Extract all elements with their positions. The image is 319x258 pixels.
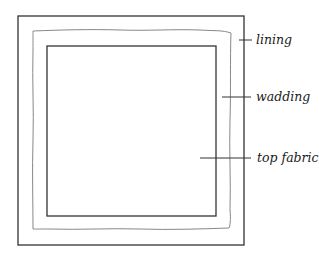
top-fabric-label: top fabric	[257, 150, 319, 165]
lining-label: lining	[256, 32, 292, 47]
quilt-layers-diagram: lining wadding top fabric	[0, 0, 319, 258]
lining-layer	[18, 16, 244, 245]
top-fabric-layer	[47, 46, 216, 216]
wadding-label: wadding	[256, 89, 310, 104]
wadding-layer	[33, 30, 231, 230]
